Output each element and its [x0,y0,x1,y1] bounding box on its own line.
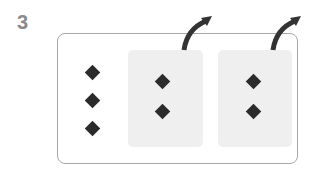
curved-arrow-icon [273,16,301,50]
curved-arrow-icon [184,16,212,50]
